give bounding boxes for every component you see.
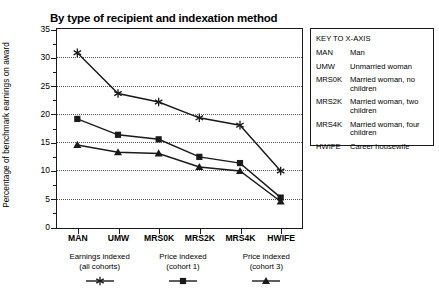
data-point-1-4 [237,160,243,166]
legend-marker-triangle-icon [225,275,308,287]
legend-item-2: Price indexed(cohort 3) [225,252,308,298]
key-code: MRS0K [316,76,350,93]
key-row-umw: UMWUnmarried woman [316,63,429,72]
y-tick [51,58,56,59]
y-minor-tick [53,157,56,158]
key-description: Man [350,49,429,58]
y-tick-label: 5 [34,195,50,203]
chart-page: By type of recipient and indexation meth… [0,0,439,302]
y-minor-tick [53,129,56,130]
y-tick-label: 35 [34,25,50,33]
data-point-1-3 [196,154,202,160]
y-tick [51,86,56,87]
plot-area [56,28,303,229]
legend-label-line2: (all cohorts) [58,262,141,272]
y-tick [51,30,56,31]
y-tick [51,171,56,172]
key-rows: MANManUMWUnmarried womanMRS0KMarried wom… [316,49,429,151]
key-code: UMW [316,63,350,72]
key-row-man: MANMan [316,49,429,58]
y-tick [51,114,56,115]
y-tick-label: 15 [34,138,50,146]
legend-label-line1: Price indexed [225,252,308,262]
y-tick [51,199,56,200]
key-code: MRS4K [316,121,350,138]
data-point-1-1 [115,132,121,138]
series-line-2 [77,145,280,202]
key-row-mrs2k: MRS2KMarried woman, two children [316,98,429,115]
legend-marker-square-icon [141,275,224,287]
y-minor-tick [53,213,56,214]
legend-label-line2: (cohort 3) [225,262,308,272]
key-row-mrs4k: MRS4KMarried woman, four children [316,121,429,138]
data-point-1-2 [156,136,162,142]
key-description: Career housewife [350,143,429,152]
key-box-title: KEY TO X-AXIS [316,34,429,43]
series-plot [57,29,301,227]
page-title: By type of recipient and indexation meth… [50,12,277,24]
key-description: Married woman, two children [350,98,429,115]
y-tick-label: 25 [34,82,50,90]
legend-label-line2: (cohort 1) [141,262,224,272]
series-line-0 [77,53,280,171]
y-minor-tick [53,44,56,45]
series-legend: Earnings indexed(all cohorts)Price index… [58,252,308,298]
data-point-2-0 [73,141,81,148]
y-minor-tick [53,185,56,186]
key-code: MAN [316,49,350,58]
legend-item-1: Price indexed(cohort 1) [141,252,224,298]
key-description: Married woman, four children [350,121,429,138]
y-minor-tick [53,100,56,101]
y-tick [51,228,56,229]
legend-item-0: Earnings indexed(all cohorts) [58,252,141,298]
y-tick-label: 20 [34,110,50,118]
key-description: Married woman, no children [350,76,429,93]
x-tick-label-hwife: HWIFE [251,233,311,243]
key-row-mrs0k: MRS0KMarried woman, no children [316,76,429,93]
legend-label-line1: Earnings indexed [58,252,141,262]
y-tick-label: 30 [34,53,50,61]
y-tick [51,143,56,144]
legend-label-line1: Price indexed [141,252,224,262]
key-to-x-axis-box: KEY TO X-AXIS MANManUMWUnmarried womanMR… [310,28,434,146]
key-code: HWIFE [316,143,350,152]
legend-marker-star-icon [58,275,141,287]
y-tick-label: 10 [34,166,50,174]
y-tick-label: 0 [34,223,50,231]
data-point-1-0 [74,116,80,122]
key-code: MRS2K [316,98,350,115]
series-line-1 [77,119,280,198]
y-axis-title: Percentage of benchmark earnings on awar… [1,10,11,240]
key-description: Unmarried woman [350,63,429,72]
y-minor-tick [53,72,56,73]
key-row-hwife: HWIFECareer housewife [316,143,429,152]
